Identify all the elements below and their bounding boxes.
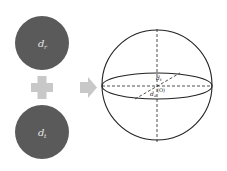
sphere-label-top-sub: t — [160, 77, 162, 82]
sphere-label-center: (O) — [157, 87, 165, 93]
plus-icon — [31, 76, 53, 99]
arrow-right-icon — [80, 77, 97, 98]
sphere-label-bottom-sub: a — [154, 93, 157, 98]
sphere — [102, 29, 212, 142]
circle-dt: d t — [15, 105, 69, 159]
diagram-canvas: d r d t d t (O) d a — [0, 0, 227, 171]
circle-dr: d r — [15, 16, 69, 70]
